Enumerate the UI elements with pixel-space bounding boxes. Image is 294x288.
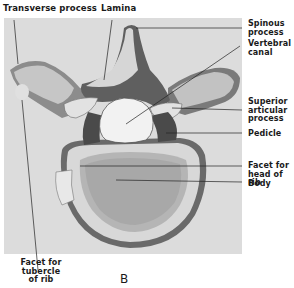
vertebral-canal [100, 98, 154, 143]
label-superior-articular-process: Superior articular process [248, 98, 288, 124]
label-body: Body [248, 180, 271, 189]
label-facet-tubercle-of-rib: Facet for tubercle of rib [18, 259, 64, 285]
panel-label: B [120, 272, 128, 286]
spinous-process [81, 25, 170, 110]
leader-transverse-process [14, 20, 18, 64]
leader-facet-tubercle [22, 100, 38, 270]
label-lamina: Lamina [101, 4, 136, 13]
label-transverse-process: Transverse process [3, 4, 97, 13]
label-pedicle: Pedicle [248, 130, 281, 139]
label-spinous-process: Spinous process [248, 20, 285, 37]
vertebral-body [61, 138, 206, 248]
label-vertebral-canal: Vertebral canal [248, 40, 291, 57]
rib-head-facet [56, 170, 74, 205]
